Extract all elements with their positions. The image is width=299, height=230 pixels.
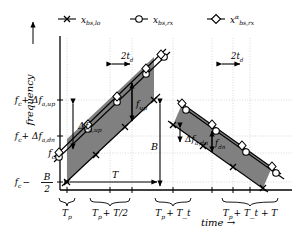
chart-canvas: frequency time → xbs,lo xbs,rx xαbs,rx [0,0,299,230]
annotation-sweep-time: T [112,169,119,180]
y-tick-label-3-numer: B [43,172,51,182]
annotation-bandwidth: B [150,141,158,152]
y-tick-label-3-denom: 2 [43,184,50,194]
circle-icon [136,16,143,23]
chart-background [0,0,299,230]
svg-text:fc−: fc− [14,177,30,189]
chirp-frequency-time-chart: frequency time → xbs,lo xbs,rx xαbs,rx [0,0,299,230]
